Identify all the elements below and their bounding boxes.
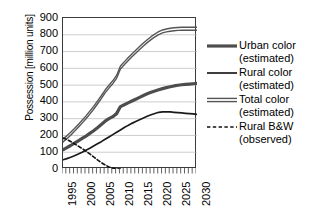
x-axis-tick-labels: 19952000200520102015202020252030 — [62, 176, 202, 216]
x-axis-tick-label: 2020 — [162, 182, 173, 206]
y-axis-tick-label: 500 — [40, 79, 58, 90]
y-axis-tick-label: 800 — [40, 28, 58, 39]
legend-label-line1: Total color — [239, 93, 289, 105]
legend-label-line2: (estimated) — [239, 106, 313, 118]
chart-plot-svg — [63, 18, 197, 169]
x-axis-tick-label: 1995 — [67, 182, 78, 206]
y-axis-tick-label: 300 — [40, 112, 58, 123]
legend-label-line2: (estimated) — [239, 79, 313, 91]
legend-entry[interactable]: Rural color(estimated) — [206, 67, 313, 91]
legend-swatch — [206, 40, 238, 52]
y-axis-tick-label: 100 — [40, 146, 58, 157]
x-axis-tick-label: 2030 — [201, 182, 212, 206]
y-axis-tick-labels: 0100200300400500600700800900 — [24, 10, 58, 175]
y-axis-tick-label: 200 — [40, 129, 58, 140]
y-axis-tick-label: 400 — [40, 95, 58, 106]
y-axis-tick-label: 0 — [52, 163, 58, 174]
series-line — [63, 138, 120, 169]
y-axis-tick-label: 600 — [40, 62, 58, 73]
legend-swatch — [206, 121, 238, 133]
legend-swatch — [206, 94, 238, 106]
x-axis-tick-marks — [62, 168, 196, 175]
y-axis-tick-label: 700 — [40, 45, 58, 56]
x-axis-tick-label: 2000 — [86, 182, 97, 206]
chart-legend: Urban color(estimated)Rural color(estima… — [206, 40, 313, 148]
legend-label-line1: Rural B&W — [239, 120, 293, 132]
legend-label-line1: Urban color — [239, 39, 296, 51]
plot-area — [62, 17, 196, 168]
legend-entry[interactable]: Total color(estimated) — [206, 94, 313, 118]
x-axis-tick-label: 2025 — [181, 182, 192, 206]
x-axis-tick-label: 2010 — [124, 182, 135, 206]
legend-entry[interactable]: Rural B&W(observed) — [206, 121, 313, 145]
legend-label-line2: (observed) — [239, 133, 313, 145]
legend-label-line1: Rural color — [239, 66, 292, 78]
chart-container: Possession [million units] 0100200300400… — [0, 0, 313, 216]
x-axis-tick-label: 2015 — [143, 182, 154, 206]
legend-entry[interactable]: Urban color(estimated) — [206, 40, 313, 64]
series-line — [63, 83, 197, 149]
legend-label-line2: (estimated) — [239, 52, 313, 64]
y-axis-tick-label: 900 — [40, 12, 58, 23]
legend-swatch — [206, 67, 238, 79]
x-axis-tick-label: 2005 — [105, 182, 116, 206]
